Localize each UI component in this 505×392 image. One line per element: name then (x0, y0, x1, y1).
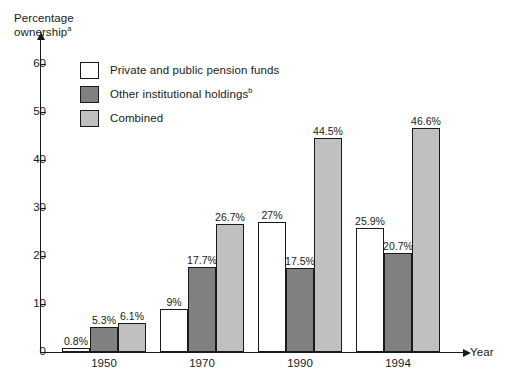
bar: 26.7% (216, 224, 244, 352)
light-gray-swatch (80, 110, 99, 127)
legend-item: Combined (80, 106, 279, 130)
x-axis-tick-label: 1994 (356, 357, 440, 370)
bar: 46.6% (412, 128, 440, 352)
bar: 44.5% (314, 138, 342, 352)
bar-value-label: 0.8% (64, 336, 88, 347)
bar-group: 25.9%20.7%46.6% (356, 40, 440, 352)
bar: 20.7% (384, 253, 412, 352)
bar-value-label: 46.6% (411, 116, 441, 127)
bar-value-label: 20.7% (383, 241, 413, 252)
legend: Private and public pension fundsOther in… (80, 58, 279, 130)
legend-item: Private and public pension funds (80, 58, 279, 82)
bar: 17.5% (286, 268, 314, 352)
bar-value-label: 44.5% (313, 126, 343, 137)
y-axis-title-superscript: a (67, 24, 71, 33)
bar-value-label: 9% (166, 297, 181, 308)
x-axis-tick-label: 1950 (62, 357, 146, 370)
bar-value-label: 17.5% (285, 256, 315, 267)
bar: 17.7% (188, 267, 216, 352)
dark-gray-swatch (80, 86, 99, 103)
y-axis-tick-mark (40, 352, 46, 353)
bar: 25.9% (356, 228, 384, 352)
white-swatch (80, 62, 99, 79)
legend-item-superscript: b (248, 86, 252, 95)
bar-chart: Percentageownershipa Year 0102030405060 … (0, 0, 505, 392)
legend-item-label: Other institutional holdingsb (110, 88, 253, 101)
bar-value-label: 26.7% (215, 212, 245, 223)
legend-item-label: Private and public pension funds (110, 64, 279, 77)
y-axis-arrow-icon (37, 32, 45, 40)
bar-value-label: 17.7% (187, 255, 217, 266)
bar-value-label: 25.9% (355, 216, 385, 227)
bar: 0.8% (62, 348, 90, 352)
x-axis-line (40, 352, 464, 353)
legend-item-label: Combined (110, 112, 163, 125)
bar: 5.3% (90, 327, 118, 352)
bar: 9% (160, 309, 188, 352)
y-axis-tick: 0 (0, 352, 46, 353)
bar: 6.1% (118, 323, 146, 352)
bar-value-label: 27% (261, 210, 282, 221)
legend-item: Other institutional holdingsb (80, 82, 279, 106)
x-axis-tick-label: 1970 (160, 357, 244, 370)
bar: 27% (258, 222, 286, 352)
x-axis-title: Year (470, 346, 494, 358)
bar-value-label: 5.3% (92, 315, 116, 326)
bar-value-label: 6.1% (120, 311, 144, 322)
x-axis-tick-label: 1990 (258, 357, 342, 370)
y-axis-title-line1: Percentage (14, 12, 74, 24)
